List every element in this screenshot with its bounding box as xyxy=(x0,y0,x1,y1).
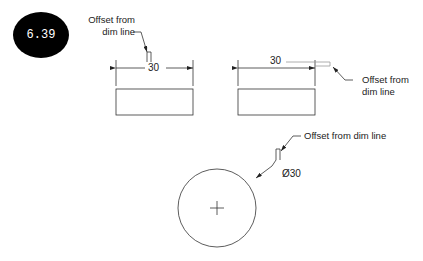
annotation-left-line1: Offset from xyxy=(77,14,135,26)
dimension-left: 30 xyxy=(148,62,159,74)
annotation-left: Offset from dim line xyxy=(77,14,135,38)
annotation-left-line2: dim line xyxy=(77,26,135,38)
annotation-right-line1: Offset from xyxy=(362,74,409,86)
annotation-right: Offset from dim line xyxy=(362,74,409,98)
annotation-right-line2: dim line xyxy=(362,86,409,98)
dimension-circle: Ø30 xyxy=(282,168,301,180)
annotation-circle: Offset from dim line xyxy=(304,130,386,142)
dimension-right: 30 xyxy=(270,55,281,67)
rectangle-right xyxy=(238,89,315,115)
rectangle-left xyxy=(116,89,193,115)
